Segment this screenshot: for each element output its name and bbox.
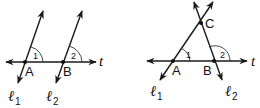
angle-1-label-right: 1 (186, 50, 191, 60)
point-b-label-left: B (63, 64, 72, 79)
figure-parallel-lines: 1 2 A B t ℓ 1 ℓ 2 (6, 11, 104, 107)
point-a-label-right: A (172, 63, 181, 78)
line-l1-subscript-right: 1 (157, 91, 163, 102)
angle-1-label-left: 1 (33, 51, 38, 61)
transversal-t-label-right: t (251, 53, 256, 69)
angle-2-label-right: 2 (220, 50, 225, 60)
point-c-right (199, 21, 203, 25)
diagram-canvas: 1 2 A B t ℓ 1 ℓ 2 1 2 A B C t ℓ 1 ℓ 2 (0, 0, 260, 108)
line-l2-subscript-left: 2 (53, 96, 59, 107)
line-l2-label-left: ℓ (46, 88, 52, 104)
point-b-right (212, 59, 216, 63)
point-a-label-left: A (25, 64, 34, 79)
line-l1-label-left: ℓ (8, 88, 14, 104)
point-c-label-right: C (205, 16, 214, 31)
figure-triangle: 1 2 A B C t ℓ 1 ℓ 2 (147, 2, 256, 102)
point-b-label-right: B (203, 63, 212, 78)
line-l2-subscript-right: 2 (232, 91, 238, 102)
line-l1-subscript-left: 1 (15, 96, 21, 107)
line-l1-label-right: ℓ (150, 83, 156, 99)
angle-2-label-left: 2 (71, 51, 76, 61)
transversal-t-label-left: t (99, 53, 104, 69)
line-l2-label-right: ℓ (225, 83, 231, 99)
